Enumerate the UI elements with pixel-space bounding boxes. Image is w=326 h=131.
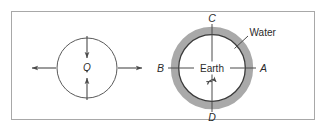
left-center-label: O xyxy=(83,62,91,73)
figure-container: O Earth Water C D A B xyxy=(0,0,326,131)
point-label-b: B xyxy=(157,62,164,74)
point-label-d: D xyxy=(208,111,216,123)
physics-figure: O Earth Water C D A B xyxy=(0,0,326,131)
point-label-c: C xyxy=(208,12,216,24)
earth-label: Earth xyxy=(200,63,224,74)
point-label-a: A xyxy=(259,62,267,74)
water-label: Water xyxy=(250,27,277,38)
